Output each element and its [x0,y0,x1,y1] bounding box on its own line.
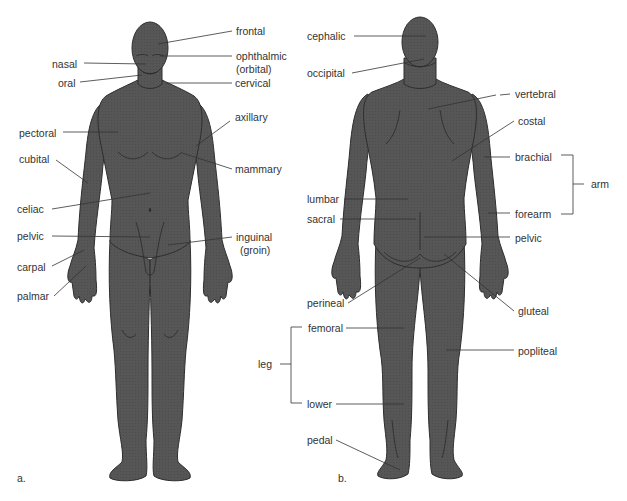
label-axillary: axillary [235,111,268,123]
label-perineal: perineal [307,297,344,309]
label-leg: leg [258,358,272,370]
label-popliteal: popliteal [518,345,557,357]
label-cephalic: cephalic [307,30,346,42]
label-groin: (groin) [240,244,270,256]
label-ophthalmic: ophthalmic [236,50,287,62]
label-palmar: palmar [17,290,49,302]
posterior-right-leg [420,240,465,479]
anterior-torso [98,80,202,258]
label-femoral: femoral [308,322,343,334]
label-gluteal: gluteal [518,305,549,317]
label-frontal: frontal [236,25,265,37]
label-oral: oral [58,77,76,89]
arm-bracket [561,155,573,214]
label-celiac: celiac [17,203,44,215]
label-costal: costal [518,115,545,127]
label-carpal: carpal [17,261,46,273]
label-lumbar: lumbar [307,193,339,205]
label-orbital: (orbital) [236,63,272,75]
anterior-right-leg [150,240,191,481]
label-arm: arm [591,178,609,190]
caption-b: b. [338,472,347,484]
label-mammary: mammary [235,163,282,175]
anterior-left-leg [109,240,150,481]
label-brachial: brachial [515,151,552,163]
label-sacral: sacral [307,213,335,225]
anterior-head [132,22,168,74]
posterior-left-leg [375,240,420,479]
label-vertebral: vertebral [515,88,556,100]
label-pectoral: pectoral [19,127,56,139]
label-lower: lower [307,398,332,410]
label-cervical: cervical [235,77,271,89]
label-pelvic-anterior: pelvic [17,230,44,242]
label-pelvic-posterior: pelvic [515,232,542,244]
label-forearm: forearm [515,208,551,220]
leg-bracket [291,327,302,403]
anterior-figure [68,22,232,481]
label-pedal: pedal [307,434,333,446]
navel [149,208,151,212]
label-occipital: occipital [307,67,345,79]
body-regions-diagram: frontal nasal ophthalmic (orbital) oral … [0,0,627,501]
label-inguinal: inguinal [236,231,272,243]
label-cubital: cubital [19,153,49,165]
caption-a: a. [17,472,26,484]
label-nasal: nasal [52,58,77,70]
